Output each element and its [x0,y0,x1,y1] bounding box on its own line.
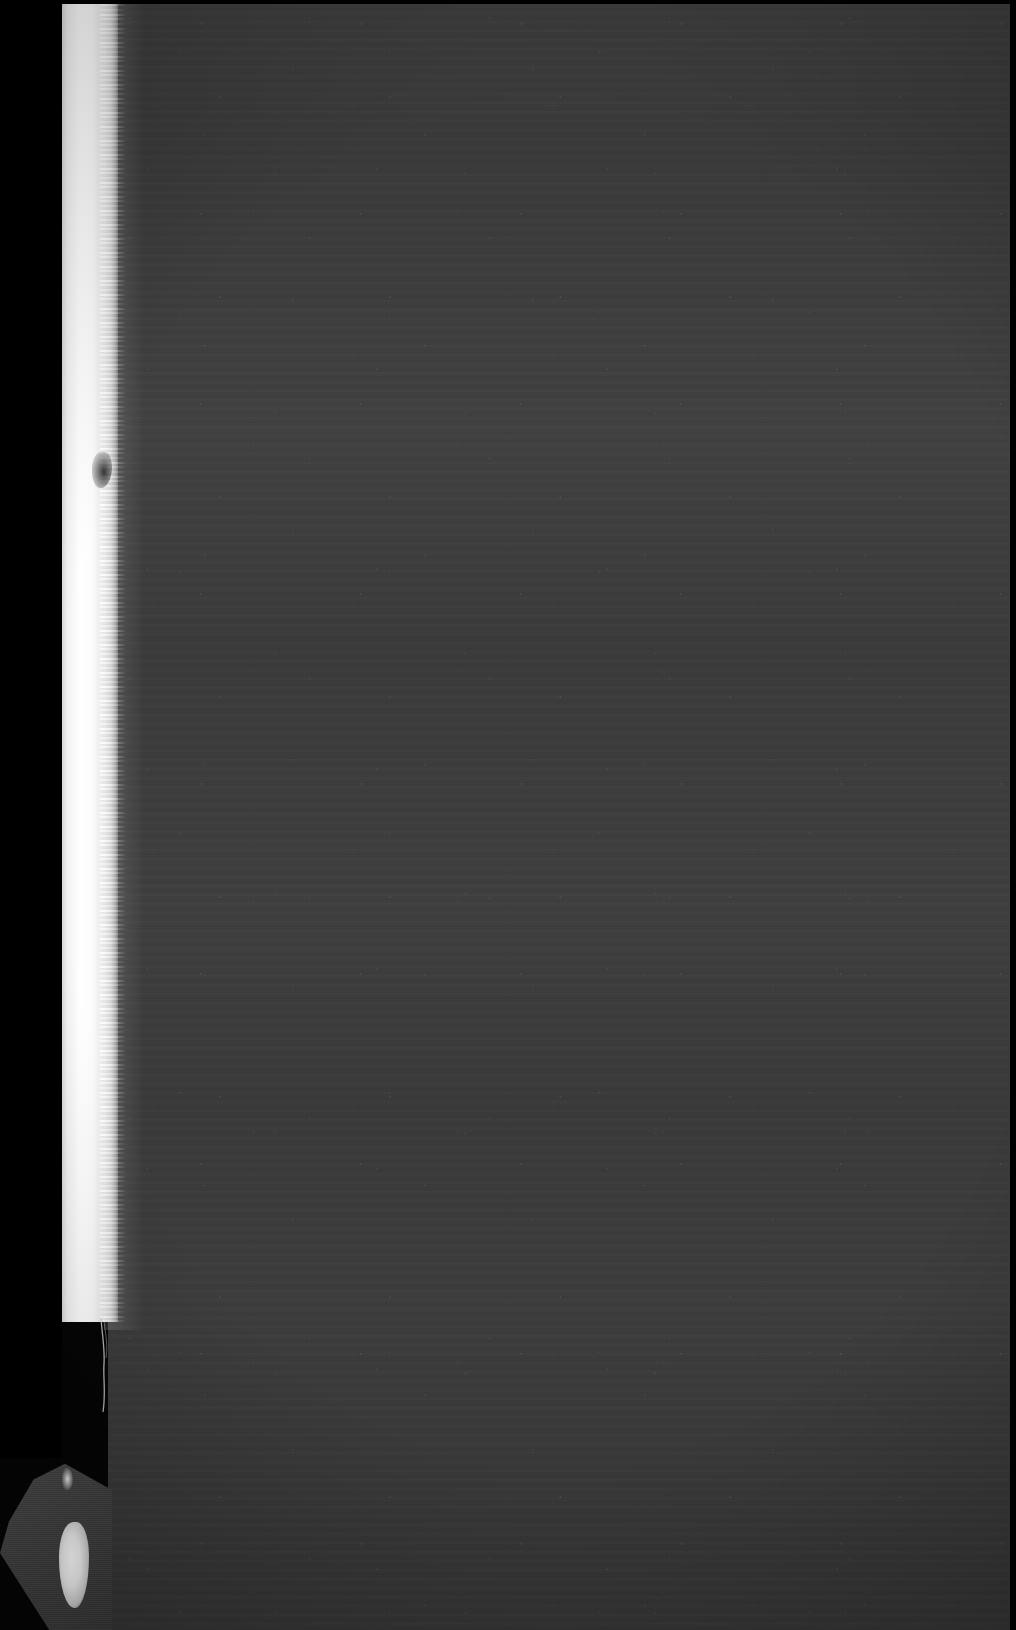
scan-border-right [1010,0,1016,1630]
scan-frame [0,0,1016,1630]
scan-border-top [0,0,1016,4]
film-grain-overlay [108,3,1010,1630]
page-edge-strip [62,0,118,1322]
page-edge-fibre-sliver [62,1468,73,1490]
cloth-texture-overlay [108,3,1010,1630]
book-cover-field [108,3,1010,1630]
scan-border-left [0,0,62,1458]
